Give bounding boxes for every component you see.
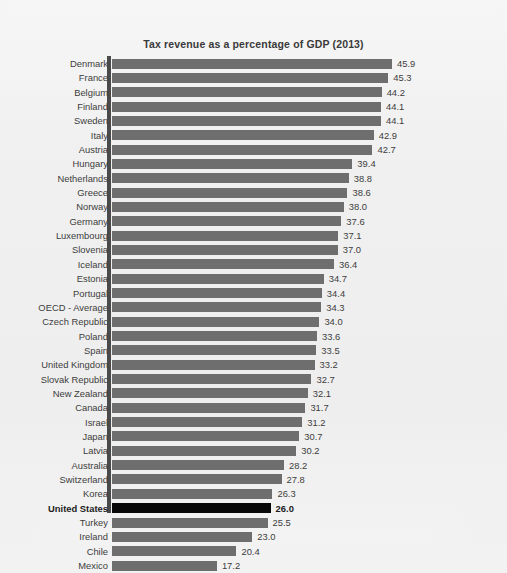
category-label: Czech Republic <box>0 316 108 327</box>
category-label: Austria <box>0 144 108 155</box>
bar <box>112 331 317 341</box>
category-label: Denmark <box>0 58 108 69</box>
value-label: 42.7 <box>377 144 395 155</box>
value-label: 39.4 <box>357 158 375 169</box>
category-label: Switzerland <box>0 474 108 485</box>
chart-row: Mexico17.2 <box>0 559 507 573</box>
bar <box>112 446 296 456</box>
value-label: 27.8 <box>287 474 305 485</box>
bar <box>112 259 334 269</box>
bar <box>112 489 272 499</box>
category-label: Greece <box>0 187 108 198</box>
chart-row: Sweden44.1 <box>0 114 507 128</box>
bar <box>112 102 381 112</box>
chart-row: Ireland23.0 <box>0 530 507 544</box>
value-label: 30.2 <box>301 445 319 456</box>
category-label: Korea <box>0 488 108 499</box>
category-label: Poland <box>0 331 108 342</box>
value-label: 38.6 <box>352 187 370 198</box>
chart-row: Spain33.5 <box>0 344 507 358</box>
value-label: 33.2 <box>320 359 338 370</box>
value-label: 42.9 <box>379 130 397 141</box>
bar-highlight <box>112 503 271 513</box>
chart-row: Germany37.6 <box>0 215 507 229</box>
chart-row: Korea26.3 <box>0 487 507 501</box>
bar <box>112 231 338 241</box>
bar <box>112 73 388 83</box>
value-label: 34.0 <box>324 316 342 327</box>
category-label: Italy <box>0 130 108 141</box>
category-label: Spain <box>0 345 108 356</box>
plot-rows: Denmark45.9France45.3Belgium44.2Finland4… <box>0 57 507 573</box>
chart-row: Hungary39.4 <box>0 157 507 171</box>
chart-row: Netherlands38.8 <box>0 172 507 186</box>
value-label: 37.1 <box>343 230 361 241</box>
bar <box>112 518 268 528</box>
value-label: 34.3 <box>326 302 344 313</box>
chart-row: Poland33.6 <box>0 330 507 344</box>
chart-row: Estonia34.7 <box>0 272 507 286</box>
category-label: OECD - Average <box>0 302 108 313</box>
chart-row: Japan30.7 <box>0 430 507 444</box>
value-label: 33.5 <box>321 345 339 356</box>
bar <box>112 59 392 69</box>
chart-row: Canada31.7 <box>0 401 507 415</box>
bar <box>112 388 308 398</box>
chart-row: Chile20.4 <box>0 545 507 559</box>
value-label: 44.1 <box>386 101 404 112</box>
chart-row: Latvia30.2 <box>0 444 507 458</box>
value-label: 31.7 <box>310 402 328 413</box>
value-label: 26.3 <box>277 488 295 499</box>
value-label: 37.6 <box>346 216 364 227</box>
value-label: 28.2 <box>289 460 307 471</box>
bar <box>112 532 252 542</box>
value-label: 20.4 <box>241 546 259 557</box>
category-label: Mexico <box>0 560 108 571</box>
value-label: 23.0 <box>257 531 275 542</box>
category-label: Slovenia <box>0 244 108 255</box>
category-label: Finland <box>0 101 108 112</box>
value-label: 32.1 <box>313 388 331 399</box>
value-label: 44.2 <box>387 87 405 98</box>
bar <box>112 288 322 298</box>
bar <box>112 546 236 556</box>
category-label: Norway <box>0 201 108 212</box>
value-label: 32.7 <box>316 374 334 385</box>
category-label: Canada <box>0 402 108 413</box>
chart-row: Italy42.9 <box>0 129 507 143</box>
category-label: Japan <box>0 431 108 442</box>
chart-row: Iceland36.4 <box>0 258 507 272</box>
category-label: Germany <box>0 216 108 227</box>
value-label: 33.6 <box>322 331 340 342</box>
value-label: 37.0 <box>343 244 361 255</box>
category-label: France <box>0 72 108 83</box>
value-label: 17.2 <box>222 560 240 571</box>
category-label: Slovak Republic <box>0 374 108 385</box>
value-label: 44.1 <box>386 115 404 126</box>
bar <box>112 245 338 255</box>
bar <box>112 159 352 169</box>
chart-row: New Zealand32.1 <box>0 387 507 401</box>
bar <box>112 460 284 470</box>
category-label: Ireland <box>0 531 108 542</box>
chart-row: Luxembourg37.1 <box>0 229 507 243</box>
category-label: New Zealand <box>0 388 108 399</box>
chart-row: Finland44.1 <box>0 100 507 114</box>
bar <box>112 216 341 226</box>
category-label: Hungary <box>0 158 108 169</box>
value-label: 38.8 <box>354 173 372 184</box>
value-label: 30.7 <box>304 431 322 442</box>
bar <box>112 130 374 140</box>
value-label: 25.5 <box>273 517 291 528</box>
bar <box>112 417 302 427</box>
chart-row: Portugal34.4 <box>0 287 507 301</box>
category-label: Latvia <box>0 445 108 456</box>
category-label: Israel <box>0 417 108 428</box>
chart-row: Switzerland27.8 <box>0 473 507 487</box>
value-label: 45.9 <box>397 58 415 69</box>
category-label: Sweden <box>0 115 108 126</box>
chart-row: Slovak Republic32.7 <box>0 373 507 387</box>
chart-row: United States26.0 <box>0 502 507 516</box>
